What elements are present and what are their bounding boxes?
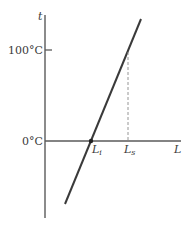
thermometer-calibration-diagram: t 100°C 0°C Li Ls L xyxy=(0,0,190,227)
ls-label-base: L xyxy=(123,143,131,156)
tick-label-0c: 0°C xyxy=(22,135,43,148)
t-axis-label: t xyxy=(38,10,43,23)
ls-label: Ls xyxy=(123,143,135,157)
calibration-line xyxy=(65,19,141,204)
ls-label-sub: s xyxy=(131,148,135,157)
l-axis-label: L xyxy=(173,143,181,156)
li-label: Li xyxy=(91,143,102,157)
li-label-sub: i xyxy=(99,148,102,157)
tick-label-100c: 100°C xyxy=(8,44,43,57)
li-label-base: L xyxy=(91,143,99,156)
